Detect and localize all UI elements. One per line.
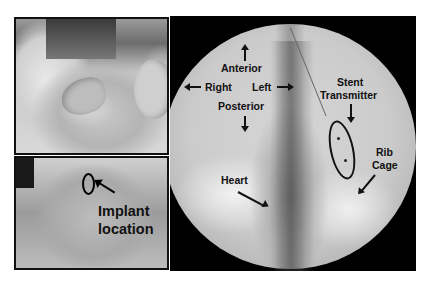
right-label: Right <box>205 81 232 93</box>
left-label: Left <box>252 81 271 93</box>
arrow-right-icon <box>288 83 294 91</box>
implant-arrow-icon <box>95 180 115 193</box>
fluoroscopy-image: Anterior Right Left Posterior Stent Tran… <box>170 16 416 271</box>
spine-shadow <box>270 41 314 271</box>
pig-head-photo <box>14 17 169 155</box>
arrow-down-icon <box>347 117 355 123</box>
right-arrow-icon <box>189 86 201 88</box>
rib-label-line2: Cage <box>372 159 398 171</box>
arrow-down-icon <box>241 126 249 132</box>
background-shadow <box>46 19 116 59</box>
rib-label-line1: Rib <box>376 146 393 158</box>
implant-label-line2: location <box>98 220 154 238</box>
arrow-up-icon <box>241 44 249 50</box>
heart-label: Heart <box>221 174 248 186</box>
pig-ventral-photo: Implant location <box>14 156 169 270</box>
pig-snout <box>134 59 169 119</box>
implant-location-label: Implant location <box>98 202 154 238</box>
stent-label-line2: Transmitter <box>320 89 377 101</box>
stent-label-line1: Stent <box>337 76 363 88</box>
background-shadow <box>16 158 34 188</box>
posterior-label: Posterior <box>218 100 264 112</box>
stent-arrow-icon <box>350 104 352 118</box>
stent-marker-dot <box>337 137 340 140</box>
pig-ear <box>57 74 110 119</box>
anterior-arrow-icon <box>244 49 246 61</box>
stent-marker-dot <box>344 159 347 162</box>
implant-label-line1: Implant <box>98 202 154 220</box>
anterior-label: Anterior <box>221 62 262 74</box>
